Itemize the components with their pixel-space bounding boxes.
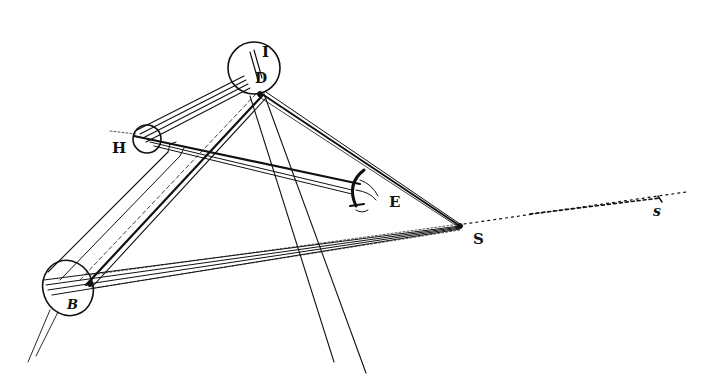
tick-s bbox=[658, 196, 662, 202]
diagram-canvas: I D H E S B s bbox=[0, 0, 714, 391]
label-S: S bbox=[473, 230, 484, 248]
arm-H-to-D bbox=[137, 76, 250, 142]
label-E: E bbox=[389, 193, 400, 211]
label-D: D bbox=[255, 70, 267, 86]
circle-B bbox=[35, 253, 101, 323]
label-H: H bbox=[112, 139, 126, 157]
label-s: s bbox=[653, 203, 661, 219]
arc-at-E bbox=[350, 170, 378, 212]
label-I: I bbox=[262, 43, 269, 61]
line-B-to-S bbox=[44, 224, 460, 295]
verticals-from-D bbox=[250, 94, 366, 373]
label-B: B bbox=[66, 297, 78, 312]
extension-below-B bbox=[28, 310, 58, 362]
point-D bbox=[258, 92, 263, 97]
point-B bbox=[88, 282, 93, 287]
point-S bbox=[458, 224, 463, 229]
line-H-to-E bbox=[110, 131, 360, 194]
arm-B-to-D bbox=[48, 94, 266, 287]
